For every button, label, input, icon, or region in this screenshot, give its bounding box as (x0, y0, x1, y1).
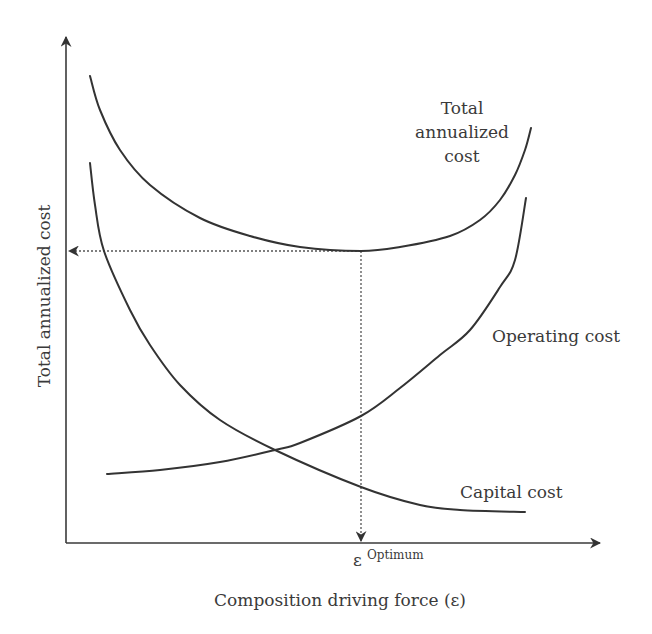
total-cost-label-line2: annualized (415, 122, 509, 142)
optimum-tick-label: ε Optimum (353, 548, 424, 570)
cost-optimization-chart: Total annualized cost Operating cost Cap… (0, 0, 652, 634)
y-axis-title: Total annualized cost (34, 205, 54, 388)
total-cost-label-line3: cost (444, 146, 479, 166)
total-cost-label-line1: Total (441, 98, 484, 118)
x-axis-title: Composition driving force (ε) (214, 590, 466, 610)
operating-cost-curve (107, 198, 526, 474)
optimum-superscript: Optimum (367, 548, 424, 562)
epsilon-symbol: ε (353, 550, 362, 570)
capital-cost-label: Capital cost (460, 482, 563, 502)
operating-cost-label: Operating cost (492, 326, 620, 346)
capital-cost-curve (90, 163, 525, 512)
